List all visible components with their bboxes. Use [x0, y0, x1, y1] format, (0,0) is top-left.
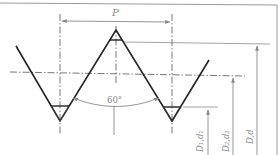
- pitch-diameter-label: D₂,d₂: [221, 130, 231, 153]
- pitch-diameter-dimension: D₂,d₂: [221, 78, 233, 155]
- angle-label: 60°: [107, 95, 122, 105]
- pitch-dimension: P: [62, 7, 170, 22]
- thread-profile-diagram: P 60° D₁,d₁ D₂,d₂ D,d: [0, 0, 279, 155]
- major-diameter-dimension: D,d: [245, 46, 257, 155]
- pitch-label: P: [111, 7, 119, 18]
- center-lines: [10, 14, 245, 135]
- angle-dimension: 60°: [73, 95, 159, 135]
- major-diameter-label: D,d: [245, 129, 255, 145]
- extension-lines: [124, 42, 270, 107]
- root-tips: [51, 106, 181, 122]
- minor-diameter-label: D₁,d₁: [195, 130, 205, 153]
- frame-border: [0, 3, 277, 155]
- minor-diameter-dimension: D₁,d₁: [195, 110, 208, 155]
